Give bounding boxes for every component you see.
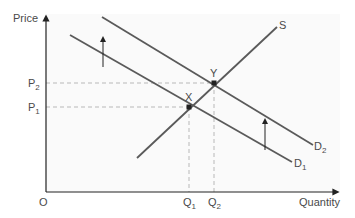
x-axis-label: Quantity (299, 196, 340, 208)
supply-label: S (279, 19, 286, 31)
quantity-label-q1: Q1 (183, 196, 197, 211)
point-x-label: X (185, 91, 193, 103)
quantity-label-q2: Q2 (208, 196, 222, 211)
supply-demand-diagram: Price Quantity O P2 P1 Q1 Q2 S D1 D2 X Y (0, 0, 355, 218)
point-y-label: Y (210, 67, 218, 79)
y-axis-label: Price (13, 12, 38, 24)
price-label-p1: P1 (28, 101, 40, 116)
price-label-p2: P2 (28, 77, 40, 92)
equilibrium-point-y (212, 81, 217, 86)
origin-label: O (39, 196, 48, 208)
equilibrium-point-x (187, 105, 192, 110)
